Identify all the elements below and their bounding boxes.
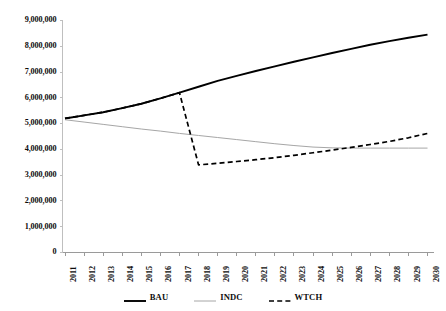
x-axis-tick-label: 2016 bbox=[164, 266, 173, 282]
x-axis-tick-label: 2023 bbox=[298, 266, 307, 282]
x-axis-tick-label: 2014 bbox=[126, 266, 135, 282]
x-axis-tick-label: 2029 bbox=[413, 266, 422, 282]
y-axis-tick-label: 2,000,000 bbox=[25, 196, 57, 205]
line-chart: 01,000,0002,000,0003,000,0004,000,0005,0… bbox=[0, 0, 446, 311]
x-axis-tick-label: 2018 bbox=[203, 266, 212, 282]
x-axis-tick-label: 2030 bbox=[432, 266, 441, 282]
chart-legend: BAUINDCWTCH bbox=[0, 288, 446, 306]
x-axis-tick-label: 2017 bbox=[184, 266, 193, 282]
x-axis-tick-label: 2026 bbox=[355, 266, 364, 282]
y-axis-tick-label: 8,000,000 bbox=[25, 41, 57, 50]
legend-label: WTCH bbox=[295, 292, 323, 302]
series-line-wtch bbox=[65, 93, 428, 165]
legend-swatch-indc-icon bbox=[194, 292, 216, 302]
legend-item-bau[interactable]: BAU bbox=[124, 292, 168, 302]
axis-lines bbox=[63, 20, 435, 253]
data-series-layer bbox=[65, 35, 428, 165]
y-axis-tick-label: 0 bbox=[53, 247, 57, 256]
x-axis-tick-label: 2022 bbox=[279, 266, 288, 282]
x-axis-tick-label: 2024 bbox=[317, 266, 326, 282]
x-axis-tick-label: 2013 bbox=[107, 266, 116, 282]
legend-label: INDC bbox=[220, 292, 242, 302]
x-axis-tick-label: 2025 bbox=[336, 266, 345, 282]
x-axis-tick-label: 2012 bbox=[88, 266, 97, 282]
x-axis-tick-label: 2019 bbox=[222, 266, 231, 282]
legend-item-wtch[interactable]: WTCH bbox=[269, 292, 323, 302]
chart-plot-svg bbox=[0, 0, 446, 311]
legend-swatch-bau-icon bbox=[124, 292, 146, 302]
x-axis-tick-label: 2021 bbox=[260, 266, 269, 282]
legend-item-indc[interactable]: INDC bbox=[194, 292, 242, 302]
series-line-indc bbox=[65, 120, 428, 148]
legend-label: BAU bbox=[150, 292, 168, 302]
series-line-bau bbox=[65, 35, 428, 119]
legend-swatch-wtch-icon bbox=[269, 292, 291, 302]
y-axis-tick-label: 3,000,000 bbox=[25, 170, 57, 179]
x-axis-tick-label: 2015 bbox=[145, 266, 154, 282]
y-axis-tick-label: 1,000,000 bbox=[25, 222, 57, 231]
x-axis-tick-label: 2020 bbox=[241, 266, 250, 282]
y-axis-tick-label: 7,000,000 bbox=[25, 67, 57, 76]
x-axis-tick-label: 2028 bbox=[393, 266, 402, 282]
y-axis-tick-label: 5,000,000 bbox=[25, 118, 57, 127]
y-axis-tick-label: 4,000,000 bbox=[25, 144, 57, 153]
y-axis-tick-label: 6,000,000 bbox=[25, 93, 57, 102]
x-axis-tick-label: 2027 bbox=[374, 266, 383, 282]
y-axis-tick-label: 9,000,000 bbox=[25, 15, 57, 24]
x-axis-tick-label: 2011 bbox=[69, 266, 78, 282]
